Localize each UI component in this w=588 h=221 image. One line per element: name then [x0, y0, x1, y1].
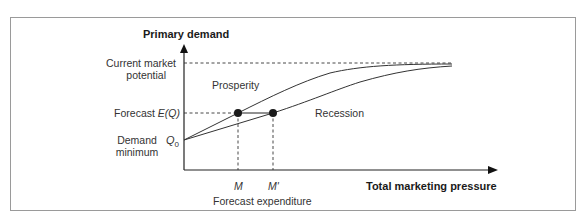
y-axis-arrow-icon	[180, 44, 188, 53]
forecast-prefix: Forecast	[114, 107, 158, 119]
demand-min-line2: minimum	[112, 146, 162, 158]
x-axis-arrow-icon	[488, 166, 498, 174]
recession-label: Recession	[315, 107, 364, 119]
forecast-label: Forecast E(Q)	[100, 107, 180, 119]
demand-diagram	[0, 0, 588, 221]
x-axis-title: Total marketing pressure	[366, 180, 497, 192]
market-potential-label: Current market potential	[104, 57, 176, 81]
demand-minimum-label: Demand minimum	[112, 134, 162, 158]
prosperity-point	[234, 109, 242, 117]
m-label: M	[234, 180, 243, 192]
prosperity-curve	[184, 64, 452, 140]
forecast-eq: E(Q)	[158, 107, 180, 119]
market-potential-line1: Current market	[104, 57, 176, 69]
m-prime-label: M'	[268, 180, 279, 192]
market-potential-line2: potential	[104, 69, 176, 81]
forecast-expenditure-label: Forecast expenditure	[213, 195, 312, 207]
y-axis-title: Primary demand	[143, 28, 229, 40]
recession-point	[269, 109, 277, 117]
q0-subscript: 0	[175, 140, 179, 149]
demand-min-line1: Demand	[112, 134, 162, 146]
prosperity-label: Prosperity	[212, 79, 259, 91]
q0-symbol: Q	[166, 134, 175, 146]
q0-label: Q0	[166, 134, 179, 151]
